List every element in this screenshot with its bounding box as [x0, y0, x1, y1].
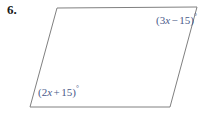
angle-constant-bottom-left: 15	[61, 86, 72, 98]
angle-operator-top-right: −	[170, 14, 179, 26]
degree-symbol-bottom-left: °	[76, 84, 79, 93]
angle-label-bottom-left: (2x+15)°	[38, 87, 79, 98]
angle-label-top-right: (3x−15)°	[156, 15, 197, 26]
problem-figure-screenshot: 6. (3x−15)° (2x+15)°	[0, 0, 204, 116]
angle-constant-top-right: 15	[179, 14, 190, 26]
degree-symbol-top-right: °	[194, 12, 197, 21]
angle-operator-bottom-left: +	[52, 86, 61, 98]
